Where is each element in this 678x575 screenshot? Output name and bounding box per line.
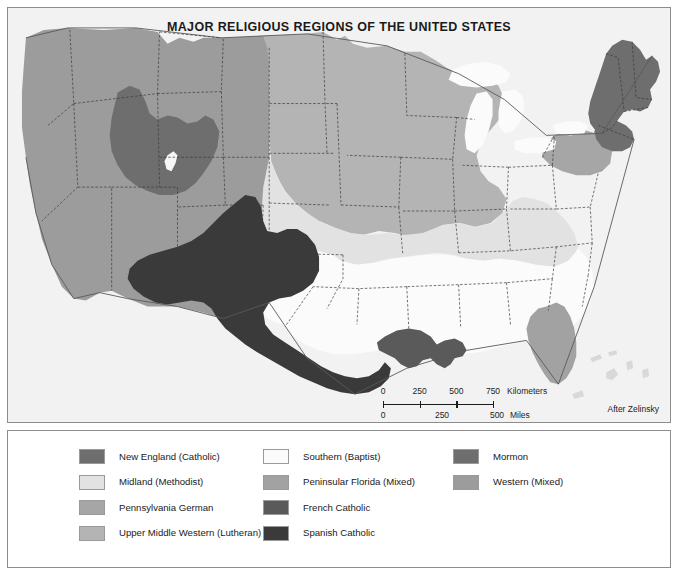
legend-swatch-new-england: [79, 449, 105, 464]
scale-km-tick-3: 750: [486, 386, 500, 397]
legend-label-southern-baptist: Southern (Baptist): [303, 452, 380, 462]
scale-mi-unit: Miles: [510, 410, 530, 421]
legend-label-peninsular-florida: Peninsular Florida (Mixed): [303, 477, 415, 487]
scale-km-tick-1: 250: [413, 386, 427, 397]
scale-tick-1: [420, 401, 421, 408]
legend-item-pennsylvania-german: Pennsylvania German: [79, 495, 263, 521]
scale-axis-line: [383, 404, 493, 405]
legend-swatch-western-mixed: [453, 475, 479, 490]
scale-tick-2: [456, 401, 457, 408]
scale-km-tick-2: 500: [449, 386, 463, 397]
legend-item-upper-middle-western: Upper Middle Western (Lutheran): [79, 521, 263, 547]
legend-column-3: Mormon Western (Mixed): [453, 444, 653, 546]
legend-label-spanish-catholic: Spanish Catholic: [303, 528, 375, 538]
scale-tick-0: [383, 401, 384, 408]
legend-label-western-mixed: Western (Mixed): [493, 477, 563, 487]
legend-item-spanish-catholic: Spanish Catholic: [263, 521, 453, 547]
scale-km-tick-0: 0: [381, 386, 386, 397]
legend-swatch-peninsular-florida: [263, 475, 289, 490]
legend-label-midland: Midland (Methodist): [119, 477, 203, 487]
map-panel: MAJOR RELIGIOUS REGIONS OF THE UNITED ST…: [7, 7, 671, 423]
legend-item-southern-baptist: Southern (Baptist): [263, 444, 453, 470]
legend-swatch-midland: [79, 475, 105, 490]
legend-swatch-spanish-catholic: [263, 526, 289, 541]
scale-mi-tick-1: 250: [435, 410, 449, 421]
legend-column-1: New England (Catholic) Midland (Methodis…: [8, 444, 263, 546]
scale-km-labels: 0 250 500 750 Kilometers: [383, 386, 548, 399]
legend-item-midland: Midland (Methodist): [79, 470, 263, 496]
attribution-text: After Zelinsky: [608, 404, 660, 414]
legend-column-2: Southern (Baptist) Peninsular Florida (M…: [263, 444, 453, 546]
legend-label-mormon: Mormon: [493, 452, 528, 462]
legend-item-peninsular-florida: Peninsular Florida (Mixed): [263, 470, 453, 496]
scale-tick-3: [493, 401, 494, 408]
legend-item-western-mixed: Western (Mixed): [453, 470, 653, 496]
legend-label-new-england: New England (Catholic): [119, 452, 220, 462]
legend-panel: New England (Catholic) Midland (Methodis…: [7, 430, 671, 568]
scale-mi-tick-0: 0: [381, 410, 386, 421]
legend-swatch-french-catholic: [263, 500, 289, 515]
legend-label-upper-middle-western: Upper Middle Western (Lutheran): [119, 528, 261, 538]
legend-label-french-catholic: French Catholic: [303, 503, 370, 513]
scale-axis: [383, 400, 493, 409]
scale-km-unit: Kilometers: [507, 386, 547, 397]
legend-swatch-southern-baptist: [263, 449, 289, 464]
scale-mi-tick-2: 500: [490, 410, 504, 421]
legend-item-new-england: New England (Catholic): [79, 444, 263, 470]
legend-swatch-pennsylvania-german: [79, 500, 105, 515]
scale-bar: 0 250 500 750 Kilometers 0 250 500 Miles: [383, 386, 548, 423]
legend-columns: New England (Catholic) Midland (Methodis…: [8, 444, 670, 546]
legend-swatch-upper-middle-western: [79, 526, 105, 541]
legend-item-mormon: Mormon: [453, 444, 653, 470]
legend-swatch-mormon: [453, 449, 479, 464]
us-religious-regions-map: [8, 8, 670, 422]
legend-item-french-catholic: French Catholic: [263, 495, 453, 521]
scale-mi-labels: 0 250 500 Miles: [383, 410, 548, 423]
map-figure: MAJOR RELIGIOUS REGIONS OF THE UNITED ST…: [0, 0, 678, 575]
legend-label-pennsylvania-german: Pennsylvania German: [119, 503, 213, 513]
